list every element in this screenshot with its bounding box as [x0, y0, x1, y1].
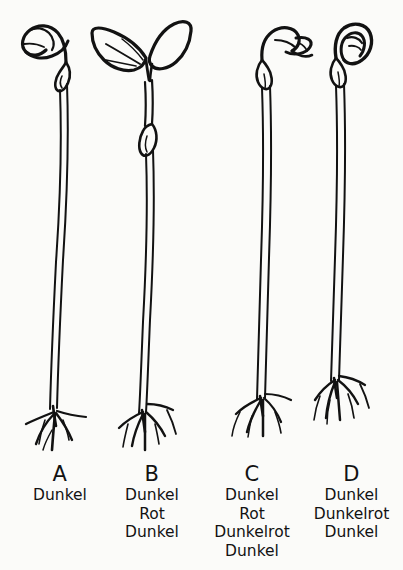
panel-caption-a: A Dunkel — [6, 462, 114, 505]
treatment-line: Rot — [196, 505, 308, 524]
treatment-line: Dunkel — [196, 486, 308, 505]
panel-letter-d: D — [300, 462, 403, 486]
seedling-c — [232, 28, 312, 437]
panel-caption-b: B Dunkel Rot Dunkel — [100, 462, 204, 542]
panel-letter-a: A — [6, 462, 114, 486]
panel-letter-c: C — [196, 462, 308, 486]
treatment-line: Dunkel — [100, 523, 204, 542]
treatment-line: Dunkelrot — [196, 523, 308, 542]
panel-caption-d: D Dunkel Dunkelrot Dunkel — [300, 462, 403, 542]
seedling-b — [92, 22, 191, 450]
seedling-figure: A Dunkel B Dunkel Rot Dunkel C Dunkel Ro… — [0, 0, 403, 570]
panel-letter-b: B — [100, 462, 204, 486]
treatment-line: Dunkel — [300, 486, 403, 505]
treatment-line: Rot — [100, 505, 204, 524]
treatment-line: Dunkel — [300, 523, 403, 542]
seedling-d — [314, 24, 372, 424]
treatment-line: Dunkel — [100, 486, 204, 505]
panel-caption-c: C Dunkel Rot Dunkelrot Dunkel — [196, 462, 308, 560]
treatment-line: Dunkel — [6, 486, 114, 505]
treatment-line: Dunkelrot — [300, 505, 403, 524]
seedling-illustration — [0, 0, 403, 460]
seedling-a — [23, 26, 86, 450]
treatment-line: Dunkel — [196, 542, 308, 561]
